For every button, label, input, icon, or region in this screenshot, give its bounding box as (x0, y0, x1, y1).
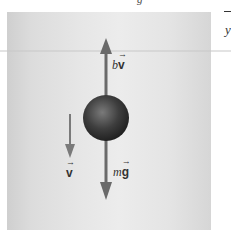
drag-v-vector: →v (118, 58, 125, 72)
drag-v: v (118, 58, 125, 72)
weight-arrow (100, 140, 112, 200)
v-vector: →v (66, 166, 73, 180)
g-symbol: g (122, 165, 129, 179)
v-symbol: v (66, 166, 73, 180)
weight-label: m→g (113, 165, 129, 180)
drag-force-arrow (100, 38, 112, 96)
velocity-label: →v (66, 166, 73, 181)
g-vector: →g (122, 165, 129, 179)
drag-force-label: b→v (112, 58, 125, 73)
velocity-arrow (65, 114, 75, 158)
sphere (83, 95, 129, 141)
free-body-diagram (0, 0, 231, 238)
mass-symbol: m (113, 165, 122, 179)
